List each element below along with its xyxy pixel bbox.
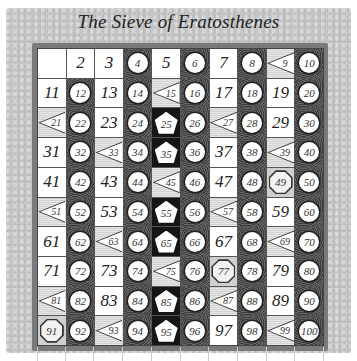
cell-number: 41 (43, 172, 60, 192)
grid-cell-38: 38 (238, 138, 266, 167)
grid-cell-32: 32 (67, 138, 95, 167)
grid-cell-50: 50 (295, 168, 323, 197)
pentagon-icon: 85 (155, 290, 178, 312)
grid-cell-43: 43 (95, 168, 123, 197)
cell-number: 11 (44, 83, 60, 103)
cell-number: 7 (219, 53, 228, 73)
circle-icon: 46 (185, 172, 205, 192)
cell-number: 57 (212, 202, 237, 222)
triangle-icon: 81 (38, 290, 65, 312)
circle-icon: 62 (70, 232, 90, 252)
circle-icon: 6 (185, 53, 205, 73)
circle-icon: 84 (128, 291, 148, 311)
circle-icon: 10 (299, 53, 319, 73)
circle-icon: 64 (128, 232, 148, 252)
cell-number: 45 (155, 172, 180, 192)
grid-cell-79: 79 (267, 257, 295, 286)
grid-cell-93: 93 (95, 316, 123, 345)
grid-cell-10: 10 (295, 49, 323, 78)
triangle-icon: 21 (38, 112, 65, 134)
grid-cell-83: 83 (95, 287, 123, 316)
grid-cell-88: 88 (238, 287, 266, 316)
grid-cell-85: 85 (152, 287, 180, 316)
grid-cell-65: 65 (152, 227, 180, 256)
circle-icon: 24 (128, 113, 148, 133)
cell-number: 37 (215, 142, 232, 162)
grid-cell-78: 78 (238, 257, 266, 286)
circle-icon: 20 (299, 83, 319, 103)
triangle-icon: 33 (95, 141, 122, 163)
circle-icon: 58 (242, 202, 262, 222)
pentagon-icon: 35 (155, 141, 178, 163)
cell-number: 29 (272, 113, 289, 133)
grid-cell-4: 4 (124, 49, 152, 78)
grid-cell-95: 95 (152, 316, 180, 345)
cell-number: 17 (215, 83, 232, 103)
cell-number: 13 (100, 83, 117, 103)
octagon-icon: 49 (269, 170, 293, 194)
number-grid: 2345678910111213141516171819202122232425… (37, 48, 324, 346)
grid-cell-98: 98 (238, 316, 266, 345)
triangle-icon: 87 (210, 290, 237, 312)
grid-cell-58: 58 (238, 198, 266, 227)
cell-number: 9 (269, 53, 294, 73)
grid-cell-11: 11 (38, 79, 66, 108)
cell-number: 67 (215, 232, 232, 252)
grid-cell-20: 20 (295, 79, 323, 108)
cell-number: 87 (212, 291, 237, 311)
grid-cell-17: 17 (210, 79, 238, 108)
circle-icon: 38 (242, 142, 262, 162)
grid-cell-40: 40 (295, 138, 323, 167)
circle-icon: 86 (185, 291, 205, 311)
grid-cell-81: 81 (38, 287, 66, 316)
grid-cell-71: 71 (38, 257, 66, 286)
pentagon-icon: 95 (155, 320, 178, 342)
grid-cell-14: 14 (124, 79, 152, 108)
grid-cell-59: 59 (267, 198, 295, 227)
triangle-icon: 15 (153, 82, 180, 104)
grid-cell-41: 41 (38, 168, 66, 197)
cell-number: 89 (272, 291, 289, 311)
grid-cell-18: 18 (238, 79, 266, 108)
grid-cell-63: 63 (95, 227, 123, 256)
grid-cell-23: 23 (95, 108, 123, 137)
grid-cell-60: 60 (295, 198, 323, 227)
cell-number: 81 (40, 291, 65, 311)
grid-cell-31: 31 (38, 138, 66, 167)
cell-number: 27 (212, 113, 237, 133)
grid-cell-84: 84 (124, 287, 152, 316)
pentagon-icon: 55 (155, 201, 178, 223)
circle-icon: 26 (185, 113, 205, 133)
grid-cell-54: 54 (124, 198, 152, 227)
grid-cell-24: 24 (124, 108, 152, 137)
circle-icon: 96 (185, 321, 205, 341)
grid-cell-80: 80 (295, 257, 323, 286)
cell-number: 63 (97, 232, 122, 252)
grid-cell-39: 39 (267, 138, 295, 167)
pentagon-icon: 25 (155, 112, 178, 134)
grid-cell-45: 45 (152, 168, 180, 197)
cell-number: 5 (162, 53, 171, 73)
triangle-icon: 57 (210, 201, 237, 223)
grid-cell-26: 26 (181, 108, 209, 137)
grid-cell-44: 44 (124, 168, 152, 197)
grid-cell-30: 30 (295, 108, 323, 137)
grid-cell-33: 33 (95, 138, 123, 167)
grid-cell-47: 47 (210, 168, 238, 197)
cell-number: 71 (43, 261, 60, 281)
grid-cell-57: 57 (210, 198, 238, 227)
circle-icon: 88 (242, 291, 262, 311)
cell-number: 93 (97, 321, 122, 341)
cell-number: 97 (215, 321, 232, 341)
triangle-icon: 39 (267, 141, 294, 163)
circle-icon: 12 (70, 83, 90, 103)
circle-icon: 14 (128, 83, 148, 103)
cell-number: 21 (40, 113, 65, 133)
cell-number: 15 (155, 83, 180, 103)
circle-icon: 82 (70, 291, 90, 311)
cell-number: 23 (100, 113, 117, 133)
grid-cell-1 (38, 49, 66, 78)
grid-cell-76: 76 (181, 257, 209, 286)
grid-cell-99: 99 (267, 316, 295, 345)
circle-icon: 50 (299, 172, 319, 192)
